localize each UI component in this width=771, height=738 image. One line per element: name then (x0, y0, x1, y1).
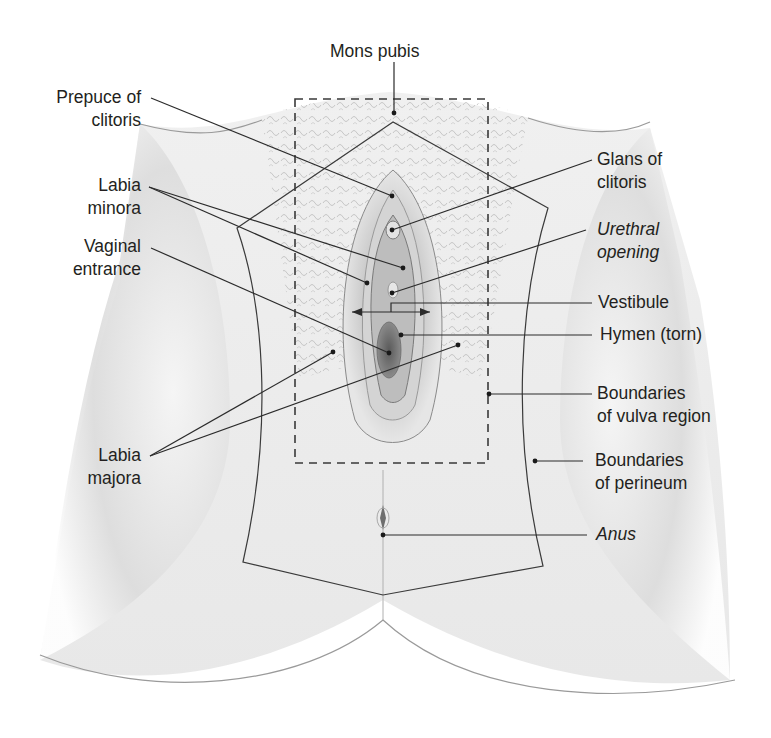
label-anus: Anus (596, 523, 636, 546)
label-glans-of-clitoris: Glans of clitoris (597, 148, 662, 194)
anatomy-figure: Mons pubis Prepuce of clitoris Labia min… (0, 0, 771, 738)
label-prepuce-of-clitoris: Prepuce of clitoris (56, 86, 141, 132)
label-hymen: Hymen (torn) (600, 323, 702, 346)
label-labia-minora: Labia minora (88, 174, 142, 220)
label-urethral-opening: Urethral opening (597, 218, 659, 264)
label-vestibule: Vestibule (598, 291, 669, 314)
label-boundaries-vulva-region: Boundaries of vulva region (597, 382, 711, 428)
label-vaginal-entrance: Vaginal entrance (73, 235, 141, 281)
label-mons-pubis: Mons pubis (330, 40, 420, 63)
label-boundaries-perineum: Boundaries of perineum (595, 449, 687, 495)
label-labia-majora: Labia majora (88, 444, 142, 490)
